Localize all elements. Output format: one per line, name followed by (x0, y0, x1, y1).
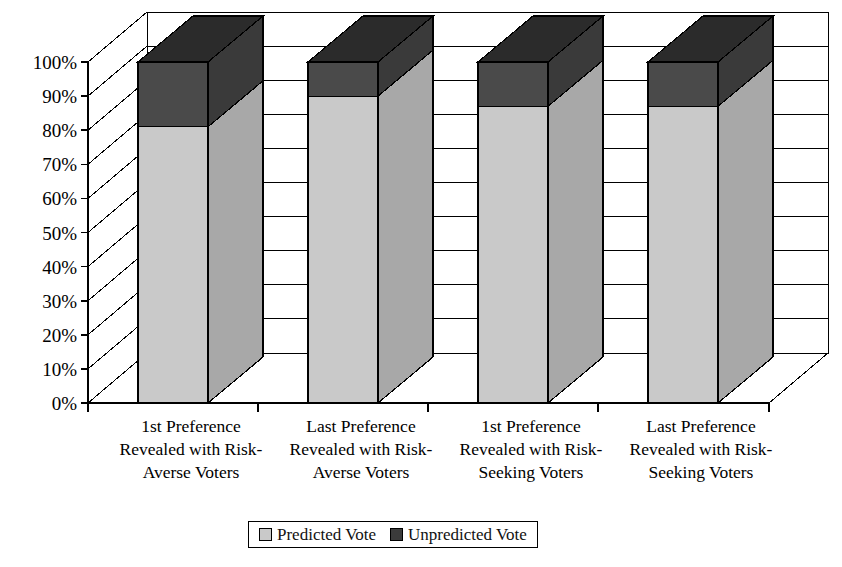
bar-segment-predicted-front (138, 127, 208, 403)
dark-swatch-icon (390, 528, 403, 541)
x-axis-category-label: Last Preference (646, 416, 756, 436)
chart-legend: Predicted VoteUnpredicted Vote (248, 521, 538, 548)
x-axis-category-label: Averse Voters (143, 462, 240, 482)
y-axis-tick-label: 0% (52, 393, 78, 414)
light-swatch-icon (259, 528, 272, 541)
legend-item[interactable]: Predicted Vote (259, 526, 376, 543)
x-axis-category-label: Revealed with Risk- (290, 439, 433, 459)
x-axis-category-label: 1st Preference (481, 416, 581, 436)
bar-segment-predicted-front (648, 106, 718, 403)
x-axis-category-label: 1st Preference (141, 416, 241, 436)
bar-segment-predicted-side (718, 60, 773, 403)
y-axis-tick-label: 10% (42, 359, 77, 380)
x-axis-category-label: Last Preference (306, 416, 416, 436)
y-axis-tick-label: 40% (42, 257, 77, 278)
x-axis-category-label: Averse Voters (313, 462, 410, 482)
chart-container: 0%10%20%30%40%50%60%70%80%90%100%1st Pre… (0, 0, 842, 567)
x-axis-category-label: Revealed with Risk- (460, 439, 603, 459)
bar-segment-unpredicted-front (478, 62, 548, 106)
x-axis-category-label: Revealed with Risk- (630, 439, 773, 459)
stacked-column-chart: 0%10%20%30%40%50%60%70%80%90%100%1st Pre… (0, 0, 842, 567)
legend-item-label: Unpredicted Vote (408, 526, 527, 543)
y-axis-tick-label: 100% (33, 52, 78, 73)
legend-item-label: Predicted Vote (277, 526, 376, 543)
gridline-depth-connector (88, 12, 147, 62)
bar-segment-unpredicted-front (138, 62, 208, 127)
y-axis-tick-label: 20% (42, 325, 77, 346)
y-axis-tick-label: 60% (42, 188, 77, 209)
bar-segment-predicted-side (378, 50, 433, 403)
y-axis-tick-label: 70% (42, 154, 77, 175)
y-axis-tick-label: 30% (42, 291, 77, 312)
bar-segment-unpredicted-front (308, 62, 378, 96)
y-axis-tick-label: 80% (42, 120, 77, 141)
x-axis-category-label: Revealed with Risk- (120, 439, 263, 459)
y-axis-tick-label: 50% (42, 223, 77, 244)
bar-segment-unpredicted-front (648, 62, 718, 106)
legend-item[interactable]: Unpredicted Vote (390, 526, 527, 543)
x-axis-category-label: Seeking Voters (479, 462, 584, 482)
bar-segment-predicted-side (208, 81, 263, 403)
bar-segment-predicted-side (548, 60, 603, 403)
y-axis-tick-label: 90% (42, 86, 77, 107)
bar-segment-predicted-front (308, 96, 378, 403)
bar-segment-predicted-front (478, 106, 548, 403)
x-axis-category-label: Seeking Voters (649, 462, 754, 482)
